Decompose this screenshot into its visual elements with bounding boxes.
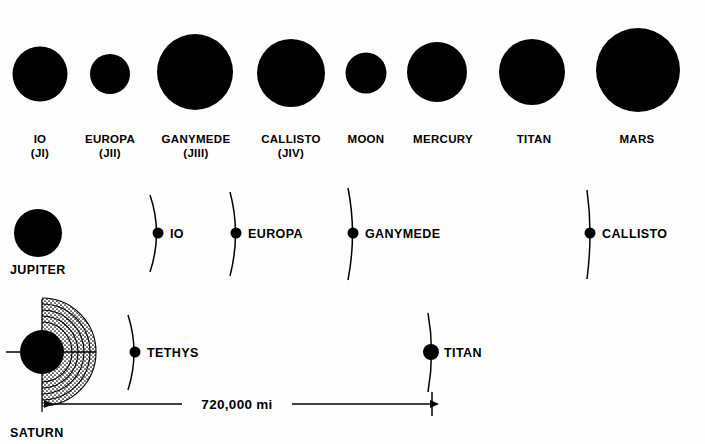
planet-label-saturn: SATURN — [10, 426, 64, 440]
size-comparison-labels: IO (JI) EUROPA (JII) GANYMEDE (JIII) CAL… — [31, 133, 655, 159]
size-designation-ganymede: (JIII) — [183, 147, 208, 159]
moon-label-europa: EUROPA — [248, 227, 303, 241]
size-disc-europa — [90, 54, 130, 94]
moon-label-titan: TITAN — [444, 346, 482, 360]
moon-label-tethys: TETHYS — [147, 346, 199, 360]
size-comparison-group — [13, 28, 681, 112]
moon-dot-ganymede — [348, 228, 359, 239]
jupiter-system-group: JUPITER IO EUROPA GANYMEDE CALLISTO — [10, 188, 667, 280]
planet-label-jupiter: JUPITER — [10, 263, 66, 277]
size-label-titan: TITAN — [517, 133, 552, 145]
size-disc-callisto — [257, 39, 325, 107]
diagram-canvas: IO (JI) EUROPA (JII) GANYMEDE (JIII) CAL… — [0, 0, 705, 444]
moon-dot-callisto — [585, 228, 596, 239]
size-disc-titan — [499, 39, 565, 105]
saturn-system-group: SATURN TETHYS TITAN 720,000 mi — [0, 298, 482, 440]
size-label-callisto: CALLISTO — [261, 133, 321, 145]
moon-dot-titan — [423, 344, 439, 360]
moon-label-callisto: CALLISTO — [602, 227, 667, 241]
size-label-mercury: MERCURY — [413, 133, 473, 145]
size-label-mars: MARS — [619, 133, 654, 145]
moon-dot-io — [153, 228, 164, 239]
moon-label-ganymede: GANYMEDE — [365, 227, 440, 241]
planet-disc-saturn — [20, 330, 64, 374]
orbit-distance-dimension: 720,000 mi — [44, 392, 432, 416]
planet-disc-jupiter — [14, 209, 62, 257]
size-disc-io — [13, 47, 68, 102]
size-designation-callisto: (JIV) — [278, 147, 304, 159]
moon-dot-tethys — [130, 347, 141, 358]
size-disc-ganymede — [157, 34, 233, 110]
size-designation-io: (JI) — [31, 147, 49, 159]
dimension-value-label: 720,000 mi — [201, 397, 272, 412]
size-label-io: IO — [34, 133, 47, 145]
astronomy-scale-diagram: IO (JI) EUROPA (JII) GANYMEDE (JIII) CAL… — [0, 0, 705, 444]
size-designation-europa: (JII) — [99, 147, 121, 159]
size-disc-mars — [596, 28, 680, 112]
size-label-ganymede: GANYMEDE — [162, 133, 231, 145]
moon-dot-europa — [231, 228, 242, 239]
size-label-moon: MOON — [348, 133, 385, 145]
size-label-europa: EUROPA — [85, 133, 135, 145]
moon-label-io: IO — [170, 227, 184, 241]
size-disc-mercury — [407, 42, 467, 102]
size-disc-moon — [346, 53, 387, 94]
